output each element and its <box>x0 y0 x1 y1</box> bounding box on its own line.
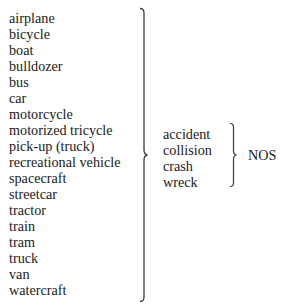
event-item: collision <box>163 142 212 158</box>
event-list: accident collision crash wreck <box>163 126 212 190</box>
vehicle-item: tram <box>9 234 120 250</box>
vehicle-item: motorcycle <box>9 106 120 122</box>
vehicle-item: streetcar <box>9 186 120 202</box>
event-item: wreck <box>163 174 212 190</box>
small-brace-icon <box>228 123 240 187</box>
event-item: accident <box>163 126 212 142</box>
nos-qualifier: NOS <box>248 147 276 163</box>
vehicle-item: car <box>9 90 120 106</box>
vehicle-list: airplane bicycle boat bulldozer bus car … <box>9 10 120 298</box>
vehicle-item: bicycle <box>9 26 120 42</box>
vehicle-item: spacecraft <box>9 170 120 186</box>
vehicle-item: pick-up (truck) <box>9 138 120 154</box>
vehicle-item: watercraft <box>9 282 120 298</box>
vehicle-item: van <box>9 266 120 282</box>
vehicle-item: airplane <box>9 10 120 26</box>
vehicle-item: train <box>9 218 120 234</box>
vehicle-item: boat <box>9 42 120 58</box>
vehicle-item: truck <box>9 250 120 266</box>
vehicle-item: bus <box>9 74 120 90</box>
vehicle-item: tractor <box>9 202 120 218</box>
vehicle-item: bulldozer <box>9 58 120 74</box>
event-item: crash <box>163 158 212 174</box>
large-brace-icon <box>138 8 152 302</box>
vehicle-item: recreational vehicle <box>9 154 120 170</box>
vehicle-item: motorized tricycle <box>9 122 120 138</box>
